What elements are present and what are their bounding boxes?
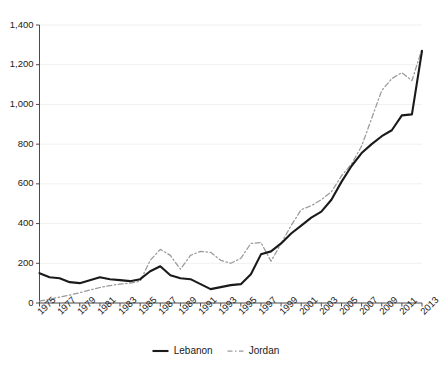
y-axis-tick-label: 600 [0,177,34,188]
y-axis-tick-label: 200 [0,257,34,268]
y-axis-tick-label: 0 [0,297,34,308]
y-axis-tick-label: 1,200 [0,58,34,69]
legend-swatch-lebanon [152,347,169,355]
series-lebanon-line [40,51,423,289]
axis-ticks [36,25,422,307]
chart-legend: LebanonJordan [0,345,431,356]
legend-swatch-jordan [227,347,244,355]
axis-lines [40,25,423,303]
legend-label: Lebanon [174,345,213,356]
y-axis-tick-label: 1,000 [0,98,34,109]
gridlines [40,25,423,263]
y-axis-tick-label: 1,400 [0,19,34,30]
series-line-lebanon [40,51,423,289]
y-axis-tick-label: 400 [0,217,34,228]
y-axis-tick-label: 800 [0,138,34,149]
legend-item-jordan[interactable]: Jordan [227,345,280,356]
legend-label: Jordan [249,345,280,356]
legend-item-lebanon[interactable]: Lebanon [152,345,213,356]
